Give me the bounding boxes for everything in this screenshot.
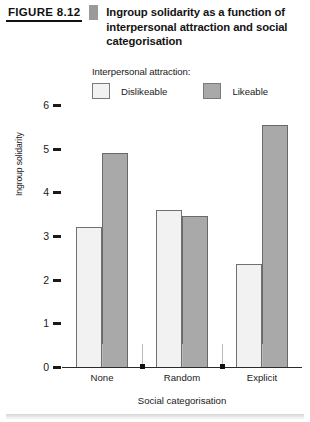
- y-axis-tick-label: 0: [34, 362, 49, 372]
- y-axis-tick-label: 5: [34, 144, 49, 154]
- y-axis-tick: [53, 235, 61, 238]
- x-axis-tick-label-none: None: [62, 372, 142, 383]
- x-axis-tick-label-explicit: Explicit: [222, 372, 302, 383]
- y-axis-tick: [53, 104, 61, 107]
- x-axis-divider: [262, 344, 263, 367]
- y-axis-tick: [53, 279, 61, 282]
- y-axis-tick: [53, 322, 61, 325]
- x-axis-divider: [102, 344, 103, 367]
- y-axis-tick: [53, 148, 61, 151]
- y-axis-tick-label: 3: [34, 231, 49, 241]
- y-axis-tick: [53, 191, 61, 194]
- y-axis-tick-label: 1: [34, 318, 49, 328]
- y-axis-tick: [53, 366, 61, 369]
- bar-explicit-dislikeable: [236, 264, 262, 367]
- y-axis-tick-label: 4: [34, 187, 49, 197]
- bar-chart: Ingroup solidarity 0123456 NoneRandomExp…: [0, 0, 310, 422]
- x-axis-tick-label-random: Random: [142, 372, 222, 383]
- y-axis-tick-label: 2: [34, 275, 49, 285]
- bar-none-dislikeable: [76, 227, 102, 367]
- x-axis-divider: [182, 344, 183, 367]
- x-axis-line: [62, 367, 302, 368]
- x-axis-group-separator: [220, 364, 225, 369]
- page-edge-artifact: [6, 414, 304, 420]
- y-axis-tick-label: 6: [34, 100, 49, 110]
- bar-random-dislikeable: [156, 210, 182, 367]
- x-axis-group-separator: [140, 364, 145, 369]
- y-axis-title: Ingroup solidarity: [14, 76, 24, 196]
- bar-explicit-likeable: [262, 125, 288, 367]
- bar-random-likeable: [182, 216, 208, 367]
- x-axis-title: Social categorisation: [62, 395, 302, 406]
- bar-none-likeable: [102, 153, 128, 367]
